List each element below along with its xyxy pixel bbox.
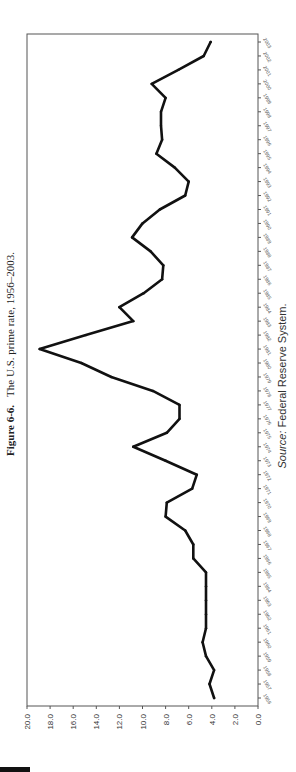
figure-source: Source: Federal Reserve System.	[276, 303, 288, 468]
year-tick-label: 1985	[262, 288, 273, 301]
data-point	[203, 55, 205, 57]
data-point	[80, 362, 82, 364]
year-tick-label: 1986	[262, 274, 273, 287]
data-point	[192, 557, 194, 559]
figure-label: Figure 6-6.	[4, 405, 16, 456]
data-point	[164, 515, 166, 517]
year-tick-label: 2001	[262, 64, 273, 77]
data-point	[159, 208, 161, 210]
year-tick-label: 1983	[262, 316, 273, 329]
data-point	[85, 334, 87, 336]
year-tick-label: 1993	[262, 176, 273, 189]
data-point	[205, 585, 207, 587]
data-point	[151, 83, 153, 85]
year-tick-label: 1980	[262, 358, 273, 371]
data-point	[205, 599, 207, 601]
year-tick-label: 2002	[262, 50, 273, 63]
year-tick-label: 1982	[262, 330, 273, 343]
value-tick-label: 4.0	[208, 713, 217, 725]
data-point	[39, 348, 41, 350]
year-tick-label: 1994	[262, 162, 273, 175]
year-tick-label: 1968	[262, 525, 273, 538]
year-tick-label: 1977	[262, 399, 273, 412]
year-tick-label: 1995	[262, 148, 273, 161]
year-tick-label: 1959	[262, 651, 273, 664]
value-tick-label: 12.0	[115, 713, 124, 729]
data-point	[164, 97, 166, 99]
data-point	[205, 655, 207, 657]
year-tick-label: 1972	[262, 469, 273, 482]
data-point	[178, 404, 180, 406]
page-marker-bar	[0, 767, 30, 772]
value-tick-label: 16.0	[69, 713, 78, 729]
year-axis: 1956195719581959196019611962196319641965…	[258, 37, 273, 706]
year-tick-label: 1957	[262, 679, 273, 692]
data-point	[160, 125, 162, 127]
year-tick-label: 1975	[262, 427, 273, 440]
year-tick-label: 1999	[262, 92, 273, 105]
year-tick-label: 1976	[262, 413, 273, 426]
data-point	[164, 460, 166, 462]
data-point	[118, 306, 120, 308]
year-tick-label: 1989	[262, 232, 273, 245]
year-tick-label: 1978	[262, 385, 273, 398]
value-tick-label: 14.0	[92, 713, 101, 729]
year-tick-label: 1962	[262, 609, 273, 622]
data-point	[152, 390, 154, 392]
year-tick-label: 1996	[262, 134, 273, 147]
year-tick-label: 1960	[262, 637, 273, 650]
value-tick-label: 0.0	[254, 713, 263, 725]
data-point	[132, 446, 134, 448]
year-tick-label: 2003	[262, 37, 273, 50]
data-point	[142, 292, 144, 294]
year-tick-label: 1979	[262, 371, 273, 384]
svg-text:Figure 6-6.The U.S. prime rate: Figure 6-6.The U.S. prime rate, 1956–200…	[4, 252, 16, 456]
data-point	[209, 41, 211, 43]
data-point	[177, 69, 179, 71]
year-tick-label: 1981	[262, 344, 273, 357]
year-tick-label: 1964	[262, 581, 273, 594]
data-point	[131, 236, 133, 238]
year-tick-label: 1991	[262, 204, 273, 217]
value-tick-label: 10.0	[139, 713, 148, 729]
data-point	[132, 320, 134, 322]
data-point	[213, 669, 215, 671]
source-prefix: Source:	[276, 431, 288, 469]
year-tick-label: 1958	[262, 665, 273, 678]
data-point	[192, 543, 194, 545]
data-point	[162, 264, 164, 266]
value-axis: 0.02.04.06.08.010.012.014.016.018.020.0	[23, 706, 263, 730]
data-point	[149, 250, 151, 252]
year-tick-label: 1971	[262, 483, 273, 496]
value-tick-label: 8.0	[162, 713, 171, 725]
figure-caption: Figure 6-6.The U.S. prime rate, 1956–200…	[4, 252, 16, 456]
year-tick-label: 1988	[262, 246, 273, 259]
year-tick-label: 1990	[262, 218, 273, 231]
year-tick-label: 1966	[262, 553, 273, 566]
plot-frame	[27, 34, 258, 706]
year-tick-label: 1984	[262, 302, 273, 315]
year-tick-label: 1998	[262, 106, 273, 119]
year-tick-label: 1997	[262, 120, 273, 133]
data-point	[205, 571, 207, 573]
year-tick-label: 1974	[262, 441, 273, 454]
data-point	[161, 139, 163, 141]
year-tick-label: 1969	[262, 511, 273, 524]
data-point	[184, 194, 186, 196]
data-point	[205, 627, 207, 629]
year-tick-label: 1970	[262, 497, 273, 510]
data-point	[160, 111, 162, 113]
data-point	[178, 418, 180, 420]
data-point	[205, 613, 207, 615]
data-point	[141, 222, 143, 224]
data-point	[155, 152, 157, 154]
year-tick-label: 1963	[262, 595, 273, 608]
data-point	[208, 683, 210, 685]
year-tick-label: 2000	[262, 78, 273, 91]
value-tick-label: 2.0	[231, 713, 240, 725]
data-point	[188, 180, 190, 182]
year-tick-label: 1987	[262, 260, 273, 273]
data-point	[213, 697, 215, 699]
figure-caption-text: The U.S. prime rate, 1956–2003.	[4, 252, 16, 397]
year-tick-label: 1967	[262, 539, 273, 552]
